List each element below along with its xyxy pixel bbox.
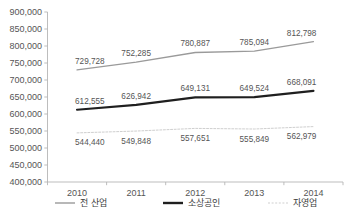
data-label: 626,942 [121,92,151,101]
data-label: 729,728 [75,57,105,66]
data-label: 812,798 [287,29,317,38]
x-axis: 20102011201220132014 [48,182,344,198]
data-label: 649,524 [240,84,270,93]
legend-label-1: 전 산업 [80,198,107,208]
chart-canvas: 400,000450,000500,000550,000600,000650,0… [0,0,349,212]
y-tick-label: 650,000 [9,92,42,102]
y-tick-label: 600,000 [9,109,42,119]
data-label: 557,651 [180,134,210,143]
legend-label-2: 소상공인 [188,198,220,208]
y-tick-label: 500,000 [9,143,42,153]
series-line [77,91,313,110]
data-label: 544,440 [75,138,105,147]
x-tick-label: 2013 [244,188,264,198]
y-tick-label: 850,000 [9,24,42,34]
y-tick-label: 900,000 [9,7,42,17]
data-label: 649,131 [180,84,210,93]
x-tick-label: 2012 [185,188,205,198]
data-label: 549,848 [121,137,151,146]
data-label: 785,094 [240,38,270,47]
series-line [77,127,313,133]
data-label: 612,555 [75,97,105,106]
chart-legend: 전 산업소상공인자영업 [55,198,317,208]
x-tick-label: 2010 [67,188,87,198]
data-label: 780,887 [180,39,210,48]
y-axis: 400,000450,000500,000550,000600,000650,0… [9,7,47,187]
x-tick-label: 2014 [303,188,323,198]
y-tick-label: 450,000 [9,160,42,170]
x-tick-label: 2011 [126,188,145,198]
data-label: 668,091 [287,78,317,87]
y-tick-label: 700,000 [9,75,42,85]
line-chart: 400,000450,000500,000550,000600,000650,0… [0,0,349,212]
data-label: 752,285 [121,49,151,58]
data-label: 555,849 [240,135,270,144]
legend-label-3: 자영업 [293,198,317,208]
data-label: 562,979 [287,132,317,141]
y-tick-label: 750,000 [9,58,42,68]
y-tick-label: 550,000 [9,126,42,136]
y-tick-label: 800,000 [9,41,42,51]
y-tick-label: 400,000 [9,177,42,187]
